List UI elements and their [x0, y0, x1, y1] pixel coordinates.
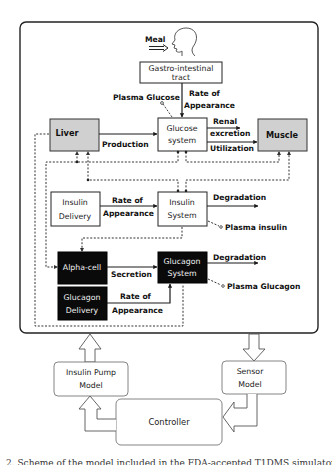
- svg-text:Controller: Controller: [148, 417, 190, 427]
- svg-text:Sensor: Sensor: [237, 367, 265, 376]
- svg-text:Glucagon: Glucagon: [164, 257, 201, 266]
- edge-label-insulin-appearance: Appearance: [103, 209, 154, 218]
- svg-text:Delivery: Delivery: [66, 306, 99, 315]
- svg-text:System: System: [167, 211, 196, 220]
- edge-label-plasma-glucagon: Plasma Glucagon: [227, 282, 300, 291]
- figure-caption: 2. Scheme of the model included in the F…: [6, 456, 332, 465]
- edge-label-plasma-glucose: Plasma Glucose: [113, 93, 180, 102]
- gi-tract-box: Gastro-intestinal tract: [140, 62, 222, 83]
- svg-text:system: system: [168, 136, 196, 145]
- pump-to-patient-block-arrow: [79, 334, 101, 362]
- svg-text:Delivery: Delivery: [59, 212, 92, 221]
- edge-label-glucagon-appearance: Appearance: [112, 306, 163, 315]
- svg-text:System: System: [167, 269, 196, 278]
- sensor-model-box: Sensor Model: [222, 361, 286, 394]
- svg-text:Model: Model: [238, 380, 261, 389]
- edge-label-secretion: Secretion: [111, 270, 152, 279]
- edge-label-insulin-rate: Rate of: [112, 196, 144, 205]
- edge-label-gi-rate: Rate of: [189, 89, 221, 98]
- glucose-system-box: Glucose system: [158, 118, 207, 151]
- plasma-glucagon-probe-icon: [222, 285, 225, 288]
- svg-text:Insulin: Insulin: [62, 198, 88, 207]
- edge-label-insulin-degradation: Degradation: [213, 193, 266, 202]
- edge-label-production: Production: [102, 140, 149, 149]
- muscle-box: Muscle: [258, 119, 307, 151]
- glucagon-delivery-box: Glucagon Delivery: [58, 287, 107, 320]
- edge-label-plasma-insulin: Plasma insulin: [225, 223, 287, 232]
- edge-label-gi-appearance: Appearance: [184, 101, 235, 110]
- meal-label: Meal: [145, 35, 165, 44]
- alpha-cell-box: Alpha-cell: [58, 252, 107, 284]
- svg-text:Gastro-intestinal: Gastro-intestinal: [149, 64, 214, 73]
- svg-text:Glucose: Glucose: [166, 124, 197, 133]
- svg-text:Liver: Liver: [56, 128, 80, 138]
- insulin-system-box: Insulin System: [158, 192, 207, 226]
- patient-to-sensor-block-arrow: [243, 334, 265, 361]
- svg-text:Alpha-cell: Alpha-cell: [63, 263, 101, 272]
- svg-text:Muscle: Muscle: [266, 130, 299, 140]
- edge-label-renal: Renal: [213, 117, 237, 126]
- sensor-to-controller-block-arrow: [223, 394, 257, 432]
- insulin-pump-model-box: Insulin Pump Model: [54, 362, 128, 396]
- edge-label-utilization: Utilization: [210, 144, 254, 153]
- svg-text:tract: tract: [172, 73, 190, 82]
- controller-box: Controller: [116, 399, 222, 445]
- svg-text:Glucagon: Glucagon: [64, 293, 101, 302]
- svg-text:Insulin: Insulin: [169, 198, 195, 207]
- glucagon-system-box: Glucagon System: [158, 252, 207, 283]
- plasma-glucose-probe-icon: [161, 102, 164, 105]
- plasma-insulin-probe-icon: [220, 226, 223, 229]
- controller-to-pump-block-arrow: [79, 396, 116, 431]
- insulin-delivery-box: Insulin Delivery: [51, 192, 100, 226]
- edge-label-glucagon-rate: Rate of: [120, 292, 152, 301]
- edge-label-excretion: excretion: [210, 129, 250, 138]
- edge-label-glucagon-degradation: Degradation: [213, 253, 266, 262]
- svg-text:Insulin Pump: Insulin Pump: [66, 368, 116, 377]
- liver-box: Liver: [50, 119, 99, 151]
- t1dms-model-diagram: Meal Gastro-intestinal tract Rate of App…: [0, 0, 332, 465]
- svg-text:Model: Model: [79, 381, 102, 390]
